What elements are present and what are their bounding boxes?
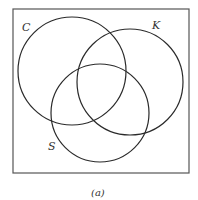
set-k-circle (77, 29, 183, 135)
set-k-label: K (151, 19, 161, 32)
set-c-label: C (22, 21, 31, 34)
set-s-label: S (48, 140, 56, 153)
universe-frame (13, 9, 189, 173)
venn-diagram: C K S (a) (0, 0, 198, 200)
set-s-circle (51, 64, 149, 162)
diagram-caption: (a) (91, 187, 105, 198)
